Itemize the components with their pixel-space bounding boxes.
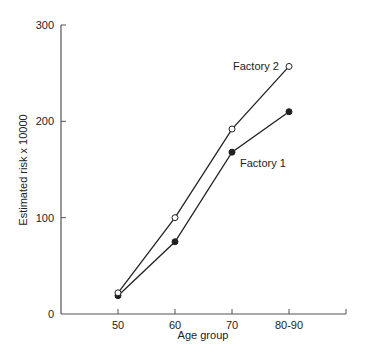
- axes: 010020030050607080-90: [36, 19, 346, 331]
- open-circle-marker: [115, 290, 121, 296]
- filled-circle-marker: [172, 239, 178, 245]
- open-circle-marker: [286, 63, 292, 69]
- x-axis-title: Age group: [178, 329, 229, 341]
- open-circle-marker: [229, 126, 235, 132]
- y-tick-label: 200: [36, 115, 54, 127]
- line-chart: 010020030050607080-90 Age groupEstimated…: [0, 0, 366, 357]
- labels-layer: Age groupEstimated risk x 10000Factory 1…: [17, 60, 286, 341]
- series-layer: [115, 63, 292, 298]
- x-tick-label: 50: [112, 319, 124, 331]
- y-tick-label: 300: [36, 19, 54, 31]
- series-label-factory-1: Factory 1: [240, 157, 286, 169]
- x-tick-label: 80-90: [275, 319, 303, 331]
- filled-circle-marker: [229, 149, 235, 155]
- open-circle-marker: [172, 215, 178, 221]
- filled-circle-marker: [286, 109, 292, 115]
- y-tick-label: 0: [48, 308, 54, 320]
- series-label-factory-2: Factory 2: [233, 60, 279, 72]
- series-line-2: [118, 66, 289, 292]
- y-tick-label: 100: [36, 212, 54, 224]
- y-axis-title: Estimated risk x 10000: [17, 114, 29, 225]
- series-line-1: [118, 112, 289, 296]
